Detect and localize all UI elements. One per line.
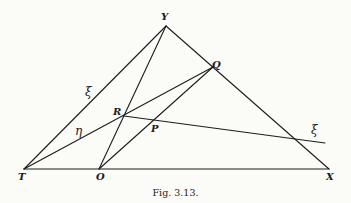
geometry-diagram bbox=[0, 0, 351, 203]
line-TY bbox=[24, 26, 166, 169]
label-Q: Q bbox=[212, 60, 221, 70]
label-O: O bbox=[96, 172, 105, 182]
line-YX bbox=[166, 26, 329, 169]
label-Y: Y bbox=[161, 12, 168, 22]
line-OQ bbox=[99, 67, 213, 169]
label-R: R bbox=[113, 107, 121, 117]
label-T: T bbox=[18, 172, 25, 182]
label-xi-left: ξ bbox=[85, 86, 92, 98]
label-eta: η bbox=[75, 125, 82, 137]
label-X: X bbox=[326, 172, 334, 182]
figure-caption: Fig. 3.13. bbox=[0, 187, 351, 198]
label-xi-right: ξ bbox=[311, 124, 318, 136]
label-P: P bbox=[151, 124, 159, 134]
line-TQ bbox=[24, 67, 213, 169]
figure-3-13: Y Q ξ R η P ξ T O X Fig. 3.13. bbox=[0, 0, 351, 203]
